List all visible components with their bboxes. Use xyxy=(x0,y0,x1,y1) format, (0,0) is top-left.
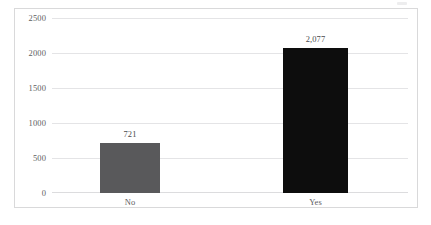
bar-yes[interactable] xyxy=(283,48,348,193)
gridline-2500 xyxy=(52,18,408,19)
y-tick-label-1500: 1500 xyxy=(2,84,46,93)
y-tick-label-2500: 2500 xyxy=(2,14,46,23)
bar-value-no: 721 xyxy=(100,130,160,139)
plot-area: 721 2,077 xyxy=(52,18,408,193)
bar-chart: 2500 2000 1500 1000 500 0 721 2,077 No Y… xyxy=(0,0,431,225)
bar-value-yes: 2,077 xyxy=(283,35,348,44)
y-tick-label-0: 0 xyxy=(2,189,46,198)
gridline-1500 xyxy=(52,88,408,89)
bar-no[interactable] xyxy=(100,143,160,193)
y-tick-label-500: 500 xyxy=(2,154,46,163)
x-axis: No Yes xyxy=(52,198,408,212)
scan-artifact xyxy=(397,2,407,5)
y-axis: 2500 2000 1500 1000 500 0 xyxy=(0,18,46,193)
gridline-1000 xyxy=(52,123,408,124)
y-tick-label-1000: 1000 xyxy=(2,119,46,128)
y-tick-label-2000: 2000 xyxy=(2,49,46,58)
gridline-2000 xyxy=(52,53,408,54)
x-tick-label-no: No xyxy=(100,198,160,207)
x-tick-label-yes: Yes xyxy=(283,198,348,207)
